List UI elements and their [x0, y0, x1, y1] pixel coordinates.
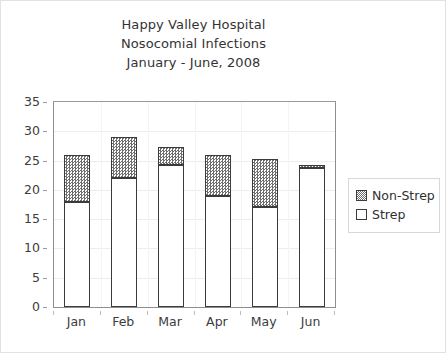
x-axis-tick-label: Jun	[287, 315, 334, 329]
vertical-gridline	[148, 102, 149, 307]
bar-group	[111, 102, 137, 307]
vertical-gridline	[101, 102, 102, 307]
x-axis-tick-mark	[100, 311, 101, 315]
chart-legend: Non-StrepStrep	[348, 178, 440, 233]
bar-segment-strep	[111, 178, 137, 307]
legend-label: Non-Strep	[372, 189, 435, 202]
bar-group	[64, 102, 90, 307]
legend-swatch-icon	[356, 190, 367, 201]
bar-segment-non-strep	[299, 165, 325, 169]
y-axis-tick-mark	[43, 248, 47, 249]
bar-segment-strep	[158, 165, 184, 307]
chart-title-line-3: January - June, 2008	[51, 53, 336, 72]
y-axis-tick-label: 20	[24, 184, 40, 196]
bar-group	[205, 102, 231, 307]
y-axis-tick-label: 25	[24, 155, 40, 167]
bar-segment-non-strep	[252, 159, 278, 208]
bar-group	[299, 102, 325, 307]
vertical-gridline	[195, 102, 196, 307]
y-axis-tick-label: 35	[24, 96, 40, 108]
y-axis-tick-mark	[43, 131, 47, 132]
y-axis-tick-label: 5	[32, 272, 40, 284]
chart-title-line-2: Nosocomial Infections	[51, 34, 336, 53]
chart-title-line-1: Happy Valley Hospital	[51, 15, 336, 34]
x-axis-tick-mark	[194, 311, 195, 315]
legend-item-strep[interactable]: Strep	[356, 205, 433, 224]
y-axis-tick-mark	[43, 307, 47, 308]
x-axis-tick-mark	[287, 311, 288, 315]
y-axis-tick-mark	[43, 161, 47, 162]
y-axis-tick-label: 0	[32, 301, 40, 313]
legend-label: Strep	[372, 208, 405, 221]
bar-segment-strep	[205, 196, 231, 307]
bar-segment-non-strep	[205, 155, 231, 196]
y-axis-tick-mark	[43, 190, 47, 191]
bar-segment-non-strep	[158, 147, 184, 165]
x-axis-tick-label: Apr	[194, 315, 241, 329]
x-axis-tick-label: May	[240, 315, 287, 329]
y-axis-tick-mark	[43, 102, 47, 103]
y-axis-tick-mark	[43, 278, 47, 279]
y-axis: 05101520253035	[1, 101, 47, 308]
chart-frame: Happy Valley Hospital Nosocomial Infecti…	[0, 0, 446, 353]
bar-group	[158, 102, 184, 307]
x-axis-tick-mark	[53, 311, 54, 315]
y-axis-tick-mark	[43, 219, 47, 220]
bar-group	[252, 102, 278, 307]
x-axis-tick-label: Feb	[100, 315, 147, 329]
chart-title: Happy Valley Hospital Nosocomial Infecti…	[51, 15, 336, 72]
gridlines	[54, 102, 335, 307]
x-axis-tick-mark	[334, 311, 335, 315]
x-axis-tick-label: Jan	[53, 315, 100, 329]
bar-segment-strep	[252, 207, 278, 307]
y-axis-tick-label: 15	[24, 213, 40, 225]
bar-segment-non-strep	[64, 155, 90, 202]
x-axis-tick-mark	[147, 311, 148, 315]
x-axis-tick-mark	[240, 311, 241, 315]
legend-item-non-strep[interactable]: Non-Strep	[356, 186, 433, 205]
vertical-gridline	[288, 102, 289, 307]
legend-swatch-icon	[356, 209, 367, 220]
x-axis-tick-label: Mar	[147, 315, 194, 329]
bar-segment-non-strep	[111, 137, 137, 178]
plot-area	[53, 101, 336, 308]
y-axis-tick-label: 10	[24, 242, 40, 254]
bar-segment-strep	[299, 168, 325, 307]
y-axis-tick-label: 30	[24, 125, 40, 137]
x-axis: JanFebMarAprMayJun	[53, 311, 336, 335]
bar-segment-strep	[64, 202, 90, 307]
vertical-gridline	[241, 102, 242, 307]
